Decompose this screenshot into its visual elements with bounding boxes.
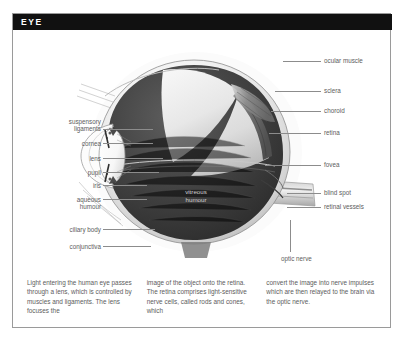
- label-blind-spot: blind spot: [324, 189, 351, 196]
- leader-retina: [269, 133, 321, 134]
- leader-lens: [103, 158, 163, 159]
- label-optic-nerve: optic nerve: [281, 255, 312, 262]
- vitreous-humour-inner-label: vitreous humour: [166, 188, 226, 203]
- label-retinal-vessels: retinal vessels: [324, 203, 364, 210]
- label-suspensory-ligaments: suspensory ligaments: [21, 118, 101, 133]
- leader-fovea: [265, 165, 321, 166]
- label-suspensory-ligaments-line1: suspensory: [21, 118, 101, 125]
- figure-title: EYE: [21, 17, 43, 27]
- label-lens: lens: [21, 155, 101, 162]
- caption-column-3: convert the image into nerve impulses wh…: [266, 278, 376, 328]
- eye-diagram-figure: EYE: [12, 13, 391, 328]
- label-fovea: fovea: [324, 161, 339, 168]
- diagram-canvas: vitreous humour suspensory ligaments cor…: [13, 30, 390, 276]
- eye-illustration: [13, 30, 390, 276]
- caption-column-1: Light entering the human eye passes thro…: [27, 278, 137, 328]
- leader-iris: [103, 185, 147, 186]
- caption-column-2: image of the object onto the retina. The…: [147, 278, 257, 328]
- leader-pupil: [103, 172, 159, 173]
- leader-optic-nerve: [290, 220, 291, 252]
- leader-choroid: [271, 111, 321, 112]
- leader-ocular-muscle: [283, 61, 321, 62]
- vitreous-humour-line2: humour: [166, 196, 226, 204]
- figure-caption: Light entering the human eye passes thro…: [13, 278, 390, 328]
- label-aqueous-humour-line2: humour: [21, 203, 101, 210]
- figure-title-bar: EYE: [13, 14, 392, 30]
- label-iris: iris: [21, 182, 101, 189]
- label-pupil: pupil: [21, 169, 101, 176]
- leader-aqueous-humour: [103, 199, 147, 200]
- leader-retinal-vessels: [287, 207, 321, 208]
- vitreous-humour-line1: vitreous: [166, 188, 226, 196]
- label-conjunctiva: conjunctiva: [21, 243, 101, 250]
- label-sclera: sclera: [324, 87, 341, 94]
- leader-ciliary-body: [103, 229, 155, 230]
- label-ciliary-body: ciliary body: [21, 226, 101, 233]
- label-ocular-muscle: ocular muscle: [324, 57, 363, 64]
- leader-cornea: [103, 143, 153, 144]
- leader-suspensory-ligaments: [103, 129, 153, 130]
- label-aqueous-humour-line1: aqueous: [21, 196, 101, 203]
- label-choroid: choroid: [324, 107, 345, 114]
- leader-sclera: [275, 91, 321, 92]
- label-retina: retina: [324, 129, 340, 136]
- label-cornea: cornea: [21, 140, 101, 147]
- label-suspensory-ligaments-line2: ligaments: [21, 125, 101, 132]
- leader-conjunctiva: [103, 246, 151, 247]
- leader-blind-spot: [287, 193, 321, 194]
- label-aqueous-humour: aqueous humour: [21, 196, 101, 211]
